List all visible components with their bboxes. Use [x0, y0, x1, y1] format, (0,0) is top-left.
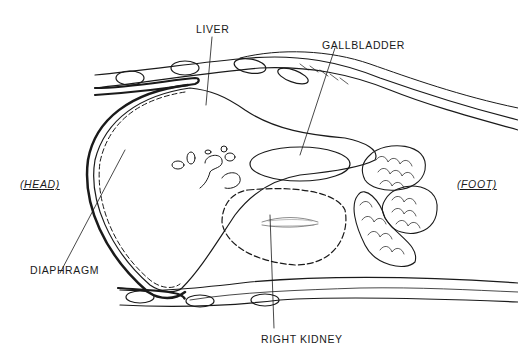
- lower-body-wall: [118, 277, 518, 307]
- right-kidney-shape: [222, 189, 346, 265]
- gallbladder-shape: [250, 147, 350, 181]
- label-diaphragm: DIAPHRAGM: [30, 264, 99, 276]
- label-head: (HEAD): [20, 178, 60, 190]
- label-gallbladder: GALLBLADDER: [322, 39, 405, 51]
- label-right-kidney: RIGHT KIDNEY: [261, 333, 343, 345]
- bile-ducts: [172, 146, 240, 188]
- label-liver: LIVER: [196, 23, 229, 35]
- liver-outline: [87, 85, 376, 298]
- label-foot: (FOOT): [457, 178, 497, 190]
- leader-lines: [60, 37, 335, 328]
- anatomy-diagram: [0, 0, 518, 363]
